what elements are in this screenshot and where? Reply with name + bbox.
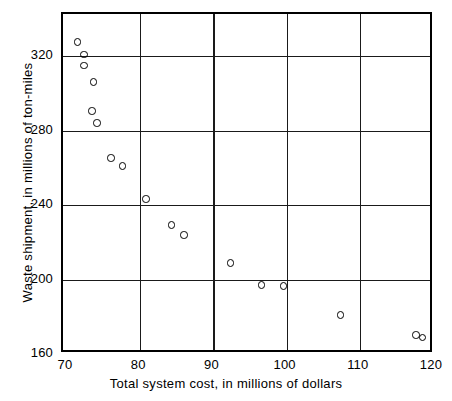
data-point — [74, 38, 81, 45]
data-point — [168, 221, 175, 228]
x-tick-label: 120 — [420, 357, 442, 372]
x-tick-label: 110 — [347, 357, 368, 372]
data-point — [419, 334, 426, 341]
y-tick-label: 160 — [31, 345, 53, 360]
x-tick-label: 90 — [204, 357, 219, 372]
data-point — [80, 62, 87, 69]
data-point — [227, 259, 234, 266]
scatter-plot-figure: 160200240280320 708090100110120 Total sy… — [0, 0, 452, 401]
data-point — [119, 162, 126, 169]
plot-area — [61, 12, 432, 352]
data-point — [337, 311, 344, 318]
data-point — [93, 119, 100, 126]
x-tick-label: 80 — [131, 357, 146, 372]
data-point — [180, 231, 187, 238]
y-axis-title: Waste shipment, in millions of ton-miles — [20, 23, 35, 343]
x-tick-label: 100 — [273, 357, 295, 372]
data-point — [258, 281, 265, 288]
data-point — [88, 107, 95, 114]
data-point — [80, 51, 87, 58]
x-tick-label: 70 — [58, 357, 73, 372]
data-point — [107, 154, 114, 161]
data-point — [142, 195, 149, 202]
data-points-layer — [63, 14, 430, 350]
data-point — [280, 282, 287, 289]
x-axis-title: Total system cost, in millions of dollar… — [0, 376, 452, 391]
data-point — [90, 78, 97, 85]
